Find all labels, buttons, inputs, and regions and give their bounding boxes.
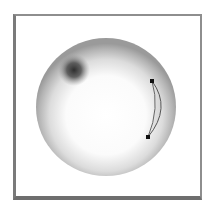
- anchor-point-top[interactable]: [150, 79, 154, 83]
- sphere-illustration: [0, 0, 213, 214]
- anchor-point-bottom[interactable]: [146, 135, 150, 139]
- dark-spot: [58, 54, 90, 86]
